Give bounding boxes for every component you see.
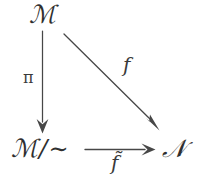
object-quotient-M-mod-sim: ℳ/∼ [11,136,69,161]
arrow-label-f: f [123,55,130,75]
arrow-label-pi: π [23,70,34,86]
equivalence-relation-symbol: ∼ [48,135,68,163]
quotient-slash: / [38,134,48,163]
commutative-diagram: ℳ ℳ/∼ 𝒩 π f f̃ [0,0,198,187]
quotient-base-symbol: ℳ [11,134,38,163]
arrow-projection [37,31,49,134]
arrow-induced-map [85,144,156,156]
arrow-label-f-tilde: f̃ [111,153,118,173]
object-codomain-N: 𝒩 [162,136,186,161]
arrow-map-f [64,34,160,131]
object-domain-M: ℳ [29,2,56,27]
